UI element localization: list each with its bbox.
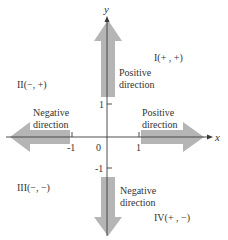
- up-direction-label-line2: direction: [119, 79, 155, 90]
- up-positive-arrow: [94, 20, 122, 97]
- quadrant-4-label: IV(+ , −): [154, 212, 190, 224]
- y-tick-label-neg1: -1: [95, 163, 103, 174]
- x-axis-label: x: [214, 131, 220, 143]
- quadrant-3-label: III(−, −): [17, 182, 50, 194]
- down-direction-label-line2: direction: [120, 197, 156, 208]
- quadrant-1-label: I(+ , +): [154, 52, 183, 64]
- down-direction-label-line1: Negative: [120, 185, 157, 196]
- y-axis-arrowhead-icon: [105, 16, 110, 22]
- up-direction-label-line1: Positive: [119, 67, 152, 78]
- left-direction-label-line1: Negative: [33, 107, 70, 118]
- x-axis-arrowhead-icon: [207, 135, 213, 140]
- right-direction-label-line2: direction: [142, 119, 178, 130]
- coordinate-plane-diagram: y x 0 -1 1 1 -1 I(+ , +) II(−, +) III(−,…: [0, 0, 228, 240]
- quadrant-2-label: II(−, +): [17, 79, 47, 91]
- left-direction-label-line2: direction: [33, 119, 69, 130]
- right-direction-label-line1: Positive: [142, 107, 175, 118]
- down-negative-arrow: [94, 177, 122, 236]
- x-tick-label-neg1: -1: [67, 142, 75, 153]
- origin-label: 0: [96, 142, 101, 153]
- x-tick-label-1: 1: [136, 142, 141, 153]
- y-tick-label-1: 1: [99, 99, 104, 110]
- y-axis-label: y: [103, 3, 109, 15]
